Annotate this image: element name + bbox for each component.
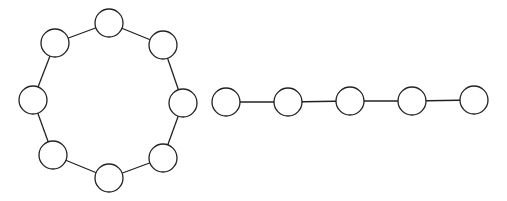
cycle-graph-node <box>95 164 123 192</box>
cycle-graph-node <box>39 141 67 169</box>
path-graph-node <box>274 88 302 116</box>
cycle-graph-node <box>19 86 47 114</box>
cycle-graph-node <box>149 144 177 172</box>
path-graph-node <box>336 87 364 115</box>
cycle-graph-node <box>149 31 177 59</box>
graph-diagram <box>0 0 507 201</box>
path-graph-node <box>460 86 488 114</box>
path-graph-node <box>212 88 240 116</box>
path-graph-node <box>398 87 426 115</box>
cycle-graph-node <box>95 9 123 37</box>
nodes-layer <box>19 9 488 192</box>
cycle-graph-node <box>169 89 197 117</box>
cycle-graph-node <box>41 29 69 57</box>
